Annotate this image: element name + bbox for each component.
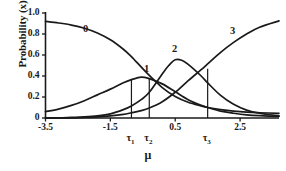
- threshold-label-tau2: τ2: [144, 132, 152, 146]
- y-tick-label-5: 1.0: [10, 7, 40, 17]
- x-tick-label-1: -1.5: [90, 122, 130, 132]
- curve-label-0: 0: [83, 23, 88, 34]
- y-tick-label-3: 0.6: [10, 49, 40, 59]
- curve-label-2: 2: [172, 43, 177, 54]
- threshold-label-subscript-tau3: 3: [207, 138, 211, 146]
- chart-plot-area: [0, 0, 286, 171]
- y-tick-label-4: 0.8: [10, 28, 40, 38]
- chart-figure: Probability (x) μ 00.20.40.60.81.0 -3.5-…: [0, 0, 286, 171]
- threshold-label-subscript-tau1: 1: [131, 138, 135, 146]
- threshold-label-subscript-tau2: 2: [149, 138, 153, 146]
- curve-label-3: 3: [230, 25, 235, 36]
- y-tick-label-1: 0.2: [10, 91, 40, 101]
- curves-group: [46, 21, 280, 118]
- curve-3: [46, 21, 280, 118]
- threshold-label-tau3: τ3: [203, 132, 211, 146]
- y-tick-label-2: 0.4: [10, 70, 40, 80]
- x-tick-label-2: 0.5: [155, 122, 195, 132]
- curve-1: [46, 77, 280, 116]
- axes-group: [42, 12, 279, 122]
- x-tick-label-0: -3.5: [26, 122, 66, 132]
- y-tick-label-0: 0: [10, 112, 40, 122]
- x-axis-label: μ: [128, 148, 168, 163]
- threshold-label-tau1: τ1: [126, 132, 134, 146]
- curve-label-1: 1: [144, 63, 149, 74]
- curve-2: [46, 59, 280, 118]
- x-tick-label-3: 2.5: [220, 122, 260, 132]
